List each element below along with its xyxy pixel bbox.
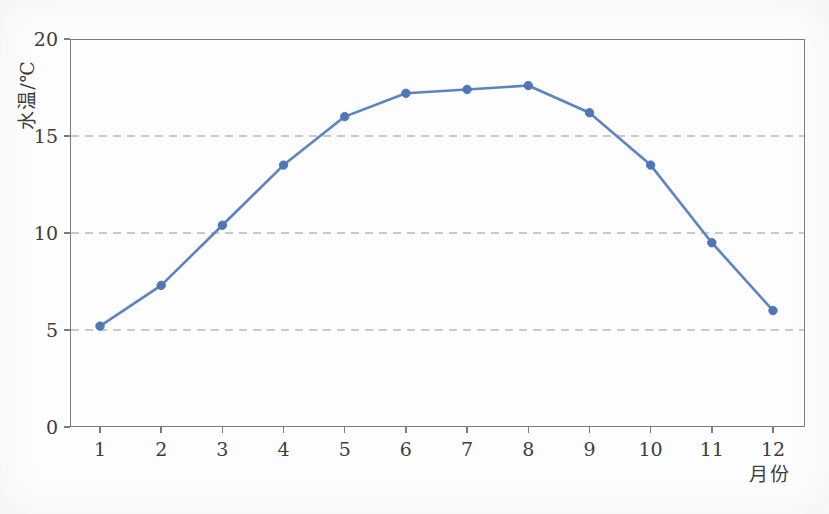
x-tick-label-5: 5: [339, 438, 351, 460]
x-tick-label-7: 7: [461, 438, 473, 460]
x-tick-label-4: 4: [277, 438, 289, 460]
y-tick-label-10: 10: [12, 222, 58, 244]
data-point-month-2: [157, 281, 165, 289]
line-chart: [0, 0, 829, 514]
temperature-line: [100, 86, 773, 327]
data-point-month-3: [218, 221, 226, 229]
x-tick-label-6: 6: [400, 438, 412, 460]
x-tick-label-12: 12: [761, 438, 785, 460]
x-tick-label-10: 10: [639, 438, 663, 460]
x-tick-label-3: 3: [216, 438, 228, 460]
x-tick-label-9: 9: [583, 438, 595, 460]
x-tick-label-2: 2: [155, 438, 167, 460]
data-point-month-9: [585, 109, 593, 117]
y-tick-label-20: 20: [12, 28, 58, 50]
data-point-month-7: [463, 85, 471, 93]
y-tick-label-15: 15: [12, 125, 58, 147]
data-point-month-8: [524, 81, 532, 89]
y-axis-title: 水温/℃: [16, 60, 38, 130]
scanned-chart-page: 水温/℃ 月份 05101520123456789101112: [0, 0, 829, 514]
data-point-month-12: [769, 306, 777, 314]
y-tick-label-5: 5: [12, 319, 58, 341]
data-point-month-10: [646, 161, 654, 169]
x-tick-label-11: 11: [700, 438, 724, 460]
y-tick-label-0: 0: [12, 416, 58, 438]
data-point-month-11: [708, 239, 716, 247]
x-tick-label-1: 1: [94, 438, 106, 460]
data-point-month-1: [96, 322, 104, 330]
x-tick-label-8: 8: [522, 438, 534, 460]
data-point-month-6: [402, 89, 410, 97]
data-point-month-5: [341, 112, 349, 120]
data-point-month-4: [279, 161, 287, 169]
x-axis-title: 月份: [749, 463, 791, 485]
